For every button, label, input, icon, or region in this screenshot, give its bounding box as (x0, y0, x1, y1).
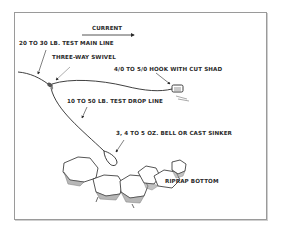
main-line (18, 72, 48, 84)
swivel-label: THREE-WAY SWIVEL (52, 55, 116, 61)
riprap-bottom-label: RIPRAP BOTTOM (165, 179, 219, 185)
pointer-main-line (38, 50, 46, 74)
pointer-drop-line (82, 107, 87, 118)
pointer-swivel (56, 67, 70, 80)
sinker-label: 3, 4 TO 5 OZ. BELL OR CAST SINKER (116, 131, 232, 137)
pointer-hook (156, 73, 170, 84)
bell-sinker (104, 151, 117, 166)
drop-line-label: 10 TO 50 LB. TEST DROP LINE (67, 99, 163, 105)
leader-line (52, 80, 172, 90)
current-label: CURRENT (92, 26, 122, 32)
main-line-label: 20 TO 30 LB. TEST MAIN LINE (19, 41, 114, 47)
cut-shad-bait (172, 85, 189, 101)
three-way-swivel (46, 82, 53, 90)
pointer-sinker (116, 140, 124, 152)
rig-illustration (0, 0, 283, 232)
hook-label: 4/0 TO 5/0 HOOK WITH CUT SHAD (114, 67, 222, 73)
